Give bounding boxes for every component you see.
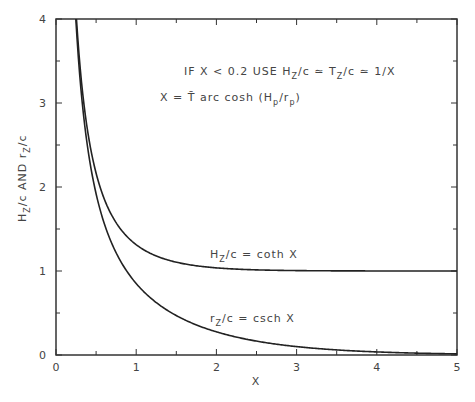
coth-curve-label: HZ/c = coth X xyxy=(210,248,298,264)
y-tick-label: 0 xyxy=(39,349,46,362)
x-axis-label: X xyxy=(252,375,261,388)
y-axis-label: HZ/c AND rZ/c xyxy=(16,134,32,222)
x-tick-label: 0 xyxy=(53,361,60,374)
y-tick-label: 1 xyxy=(39,265,46,278)
annotation-line1: IF X < 0.2 USE HZ/c ≃ TZ/c ≃ 1/X xyxy=(184,65,395,81)
x-tick-label: 2 xyxy=(213,361,220,374)
y-tick-label: 4 xyxy=(39,13,46,26)
y-tick-label: 3 xyxy=(39,97,46,110)
x-tick-label: 4 xyxy=(373,361,380,374)
y-tick-label: 2 xyxy=(39,181,46,194)
coth-curve xyxy=(76,19,457,271)
csch-curve-label: rZ/c = csch X xyxy=(210,312,295,328)
x-tick-label: 1 xyxy=(133,361,140,374)
x-tick-label: 3 xyxy=(293,361,300,374)
line-chart: 01234501234 IF X < 0.2 USE HZ/c ≃ TZ/c ≃… xyxy=(0,0,475,402)
x-tick-label: 5 xyxy=(454,361,461,374)
annotation-line2: X = T̄ arc cosh (Hp/rp) xyxy=(160,91,301,107)
